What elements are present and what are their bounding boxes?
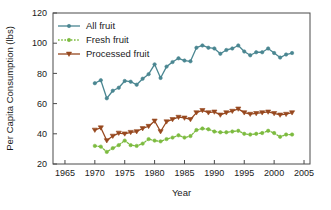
data-point	[135, 144, 138, 147]
data-point	[249, 133, 252, 136]
data-point	[207, 128, 210, 131]
data-point	[231, 130, 234, 133]
data-point	[104, 139, 109, 143]
data-point	[213, 47, 216, 50]
x-tick-label: 2005	[294, 168, 314, 178]
y-tick-label: 120	[32, 8, 47, 18]
data-point	[290, 51, 293, 54]
data-point	[99, 78, 102, 81]
y-tick-label: 20	[37, 159, 47, 169]
x-tick-label: 1995	[234, 168, 254, 178]
data-point	[272, 131, 275, 134]
data-point	[117, 143, 120, 146]
y-tick-label: 80	[37, 69, 47, 79]
x-tick-label: 1985	[174, 168, 194, 178]
y-axis-title: Per Capita Consumption (lbs)	[4, 26, 15, 151]
data-point	[171, 136, 174, 139]
data-point	[266, 47, 269, 50]
data-point	[183, 136, 186, 139]
data-point	[93, 144, 96, 147]
chart-canvas: 2040608010012019651970197519801985199019…	[0, 0, 331, 210]
data-point	[278, 135, 281, 138]
data-point	[105, 150, 108, 153]
data-point	[147, 137, 150, 140]
data-point	[249, 54, 252, 57]
y-tick-label: 60	[37, 99, 47, 109]
data-point	[225, 48, 228, 51]
data-point	[141, 142, 144, 145]
x-tick-label: 1990	[204, 168, 224, 178]
data-point	[189, 60, 192, 63]
x-tick-label: 1965	[55, 168, 75, 178]
data-point	[260, 131, 263, 134]
legend-item-label: Fresh fruit	[86, 34, 129, 45]
data-point	[99, 145, 102, 148]
data-point	[129, 143, 132, 146]
data-point	[123, 79, 126, 82]
data-point	[243, 50, 246, 53]
data-point	[278, 56, 281, 59]
data-point	[195, 46, 198, 49]
data-point	[165, 137, 168, 140]
data-point	[189, 134, 192, 137]
data-point	[153, 63, 156, 66]
data-point	[219, 131, 222, 134]
legend-swatch-marker	[67, 24, 70, 27]
series-processed-fruit	[92, 107, 294, 143]
data-point	[105, 97, 108, 100]
data-point	[117, 86, 120, 89]
data-point	[260, 51, 263, 54]
data-point	[177, 134, 180, 137]
x-tick-label: 2000	[264, 168, 284, 178]
data-point	[284, 133, 287, 136]
x-tick-label: 1975	[115, 168, 135, 178]
data-point	[141, 77, 144, 80]
data-point	[231, 47, 234, 50]
data-point	[290, 133, 293, 136]
data-point	[92, 128, 97, 132]
data-point	[237, 129, 240, 132]
data-point	[111, 146, 114, 149]
data-point	[111, 89, 114, 92]
data-point	[243, 132, 246, 135]
data-point	[159, 140, 162, 143]
data-point	[165, 65, 168, 68]
data-point	[213, 130, 216, 133]
legend-item-label: All fruit	[86, 20, 115, 31]
data-point	[171, 60, 174, 63]
data-point	[195, 128, 198, 131]
data-point	[218, 113, 223, 117]
legend-item-label: Processed fruit	[86, 48, 150, 59]
data-point	[225, 131, 228, 134]
x-axis-title: Year	[172, 187, 191, 198]
data-point	[255, 132, 258, 135]
data-point	[135, 83, 138, 86]
x-tick-label: 1970	[85, 168, 105, 178]
fruit-consumption-chart: 2040608010012019651970197519801985199019…	[0, 0, 331, 210]
data-point	[266, 129, 269, 132]
data-point	[147, 72, 150, 75]
data-point	[272, 51, 275, 54]
data-point	[284, 53, 287, 56]
data-point	[255, 51, 258, 54]
data-point	[237, 44, 240, 47]
x-tick-label: 1980	[145, 168, 165, 178]
data-point	[201, 127, 204, 130]
data-point	[188, 118, 193, 122]
y-tick-label: 100	[32, 38, 47, 48]
data-point	[207, 46, 210, 49]
data-point	[177, 57, 180, 60]
data-point	[123, 139, 126, 142]
data-point	[159, 76, 162, 79]
data-point	[183, 59, 186, 62]
data-point	[93, 82, 96, 85]
legend: All fruitFresh fruitProcessed fruit	[58, 20, 150, 59]
legend-swatch-marker	[67, 38, 70, 41]
data-point	[219, 52, 222, 55]
data-point	[201, 44, 204, 47]
data-point	[129, 80, 132, 83]
series-fresh-fruit	[93, 127, 294, 154]
data-point	[153, 139, 156, 142]
data-point	[158, 130, 163, 134]
y-tick-label: 40	[37, 129, 47, 139]
